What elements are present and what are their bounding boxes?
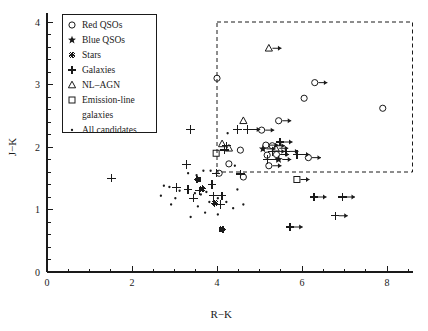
selection-box [217, 22, 413, 172]
lower-limit-arrow [312, 155, 321, 160]
datapoint-small-dot [174, 197, 176, 199]
datapoint-open-triangle [240, 117, 247, 124]
legend-label-continued: galaxies [82, 110, 113, 120]
datapoint-small-dot [208, 201, 210, 203]
y-tick-label: 4 [35, 17, 40, 28]
datapoint-small-dot [202, 170, 204, 172]
plot-canvas: 0246801234R−KJ−KRed QSOsBlue QSOsStarsGa… [0, 0, 428, 331]
lower-limit-arrow [272, 163, 281, 168]
datapoint-small-dot [217, 197, 219, 199]
x-tick-label: 0 [45, 277, 50, 288]
y-tick-label: 0 [35, 267, 40, 278]
datapoint-open-square [294, 177, 300, 183]
legend-label: Emission-line [82, 95, 135, 105]
lower-limit-arrow [339, 213, 348, 218]
datapoint-small-dot [225, 201, 227, 203]
datapoint-open-triangle [265, 44, 272, 51]
x-tick-label: 6 [300, 277, 305, 288]
datapoint-open-circle [226, 161, 232, 167]
datapoint-small-dot [209, 170, 211, 172]
datapoint-open-triangle [219, 140, 226, 147]
lower-limit-arrow [272, 46, 281, 51]
datapoint-small-dot [160, 195, 162, 197]
datapoint-small-dot [168, 186, 170, 188]
datapoint-filled-star [259, 145, 267, 153]
small-dot-icon [71, 129, 73, 131]
datapoint-open-circle [312, 80, 318, 86]
datapoint-small-dot [200, 193, 202, 195]
datapoint-small-dot [234, 165, 236, 167]
figure-scatter-plot: 0246801234R−KJ−KRed QSOsBlue QSOsStarsGa… [0, 0, 428, 331]
lower-limit-arrow [284, 140, 293, 145]
datapoint-open-circle [240, 174, 246, 180]
legend-label: Stars [82, 50, 101, 60]
y-tick-label: 2 [35, 142, 40, 153]
y-axis-title: J−K [6, 138, 18, 156]
datapoint-small-dot [194, 192, 196, 194]
lower-limit-arrow [279, 146, 288, 151]
legend-label: All candidates [82, 125, 137, 135]
datapoint-open-circle [237, 147, 243, 153]
datapoint-small-dot [187, 172, 189, 174]
x-axis-title: R−K [211, 308, 233, 320]
lower-limit-arrow [294, 225, 303, 230]
datapoint-open-circle [259, 127, 265, 133]
datapoint-small-dot [195, 174, 197, 176]
y-tick-label: 1 [35, 204, 40, 215]
datapoint-small-dot [163, 185, 165, 187]
lower-limit-arrow [318, 80, 327, 85]
x-tick-label: 2 [130, 277, 135, 288]
datapoint-small-dot [197, 205, 199, 207]
datapoint-small-dot [242, 203, 244, 205]
x-tick-label: 4 [215, 277, 220, 288]
legend-label: Blue QSOs [82, 35, 125, 45]
legend-label: Red QSOs [82, 20, 123, 30]
legend-label: NL–AGN [82, 80, 120, 90]
lower-limit-arrow [282, 157, 291, 162]
datapoint-open-circle [276, 118, 282, 124]
lower-limit-arrow [282, 118, 291, 123]
x-tick-label: 8 [385, 277, 390, 288]
datapoint-open-square [213, 150, 219, 156]
datapoint-small-dot [170, 203, 172, 205]
datapoint-small-dot [226, 132, 228, 134]
datapoint-small-dot [236, 188, 238, 190]
datapoint-small-dot [204, 211, 206, 213]
datapoint-small-dot [232, 207, 234, 209]
legend-label: Galaxies [82, 65, 116, 75]
datapoint-small-dot [190, 216, 192, 218]
lower-limit-arrow [346, 195, 355, 200]
datapoint-small-dot [205, 191, 207, 193]
y-tick-label: 3 [35, 79, 40, 90]
lower-limit-arrow [301, 177, 310, 182]
lower-limit-arrow [301, 152, 310, 157]
lower-limit-arrow [318, 195, 327, 200]
datapoint-small-dot [178, 190, 180, 192]
datapoint-open-circle [380, 105, 386, 111]
datapoint-open-circle [301, 95, 307, 101]
datapoint-small-dot [217, 213, 219, 215]
lower-limit-arrow [265, 128, 274, 133]
